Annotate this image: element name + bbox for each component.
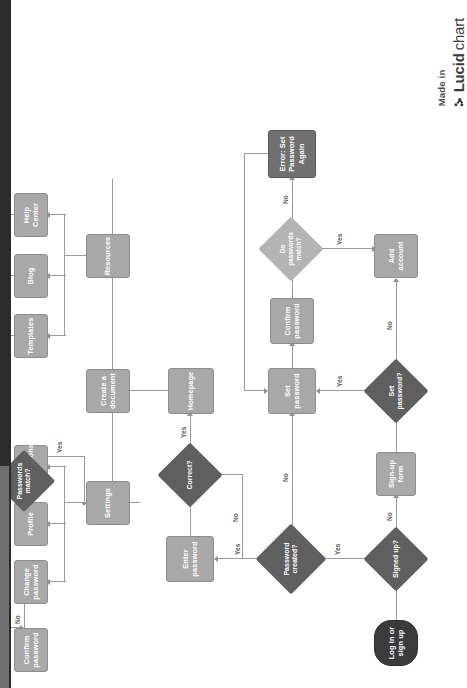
edge-label-do-pw-match-yes: Yes	[336, 233, 343, 246]
node-confirm-password-label: Confirm password	[283, 303, 301, 338]
node-change-password-label: Change password	[22, 564, 40, 599]
edge-label-password-created-yes: Yes	[234, 543, 241, 556]
node-start[interactable]: Log in or sign up	[374, 620, 418, 666]
node-correct[interactable]: Correct?	[167, 452, 213, 498]
edge-settings-branch-bar	[64, 466, 65, 582]
edge-settings-to-change-password	[48, 581, 66, 582]
node-help-center[interactable]: Help Center	[14, 193, 48, 237]
edge-label-correct-no: No	[232, 512, 239, 523]
node-blog-label: Blog	[26, 268, 35, 285]
node-error-set-password-again[interactable]: Error: Set Password Again	[268, 130, 316, 178]
node-create-document[interactable]: Create a document	[86, 369, 130, 413]
edge-set-password-q-yes	[318, 390, 368, 391]
edge-settings-to-notifications	[48, 466, 66, 467]
node-set-password[interactable]: Set password	[268, 368, 316, 414]
edge-change-password-to-confirm2	[24, 604, 25, 628]
edge-homepage-branch-bar	[112, 179, 113, 503]
node-templates-label: Templates	[26, 318, 35, 355]
edge-label-signed-up-no: No	[386, 511, 393, 522]
node-signed-up-label: Signed up?	[373, 536, 419, 582]
edge-resources-to-blog	[48, 275, 66, 276]
node-do-passwords-match-label: Do passwords match?	[268, 226, 314, 272]
edge-settings-to-profile	[48, 523, 66, 524]
node-profile-label: Profile	[26, 512, 35, 536]
node-enter-password[interactable]: Enter password	[166, 536, 214, 582]
node-create-document-label: Create a document	[99, 373, 117, 409]
node-change-password[interactable]: Change password	[14, 560, 48, 604]
edge-error-return-h	[244, 153, 245, 391]
node-error-label: Error: Set Password Again	[278, 132, 305, 176]
edge-label-passwords-match-no: No	[14, 614, 21, 625]
node-set-password-q[interactable]: Set password?	[373, 368, 419, 414]
node-signup-form-label: Sign-up form	[387, 454, 405, 494]
node-settings[interactable]: Settings	[86, 481, 130, 525]
edge-resources-to-help-center	[48, 214, 66, 215]
node-do-passwords-match[interactable]: Do passwords match?	[268, 226, 314, 272]
node-resources-label: Resources	[103, 237, 112, 276]
node-start-label: Log in or sign up	[387, 627, 405, 660]
watermark-brand-bold: Lucid	[450, 53, 467, 92]
node-set-password-q-label: Set password?	[373, 368, 419, 414]
edge-label-set-password-q-no: No	[386, 320, 393, 331]
node-profile[interactable]: Profile	[14, 502, 48, 546]
node-password-created-label: Password created?	[266, 534, 316, 584]
watermark-made-in-label: Made in	[436, 18, 447, 106]
edge-label-correct-yes: Yes	[180, 426, 187, 439]
node-homepage-label: Homepage	[186, 372, 195, 411]
edge-passwords-match-yes-h	[84, 456, 85, 502]
node-help-center-label: Help Center	[22, 195, 40, 235]
node-enter-password-label: Enter password	[181, 538, 199, 580]
edge-password-created-no	[292, 414, 293, 536]
watermark-inner: Made in Lucidchart	[436, 18, 467, 106]
arrowhead	[393, 278, 399, 282]
node-blog[interactable]: Blog	[14, 254, 48, 298]
edge-set-password-q-no	[396, 280, 397, 368]
edge-error-return-v	[244, 153, 270, 154]
edge-label-password-created-no: No	[282, 472, 289, 483]
node-signup-form[interactable]: Sign-up form	[376, 452, 416, 496]
node-settings-label: Settings	[103, 488, 112, 518]
edge-correct-no-h	[242, 474, 243, 559]
node-add-account[interactable]: Add account	[374, 234, 418, 278]
arrowhead	[214, 556, 218, 562]
edge-do-pw-match-yes	[316, 248, 374, 249]
edge-correct-no-up	[216, 558, 243, 559]
node-homepage[interactable]: Homepage	[168, 368, 214, 414]
node-confirm-password-2[interactable]: Confirm password	[14, 628, 48, 672]
node-password-created[interactable]: Password created?	[266, 534, 316, 584]
watermark-brand: Lucidchart	[450, 18, 467, 106]
edge-label-do-pw-match-no: No	[282, 194, 289, 205]
edge-error-return-down	[244, 390, 266, 391]
edge-resources-to-templates	[48, 335, 66, 336]
watermark-brand-light: chart	[450, 18, 467, 50]
node-confirm-password[interactable]: Confirm password	[270, 298, 314, 344]
edge-label-set-password-q-yes: Yes	[336, 375, 343, 388]
edge-label-passwords-match-yes: Yes	[56, 441, 63, 454]
node-templates[interactable]: Templates	[14, 314, 48, 358]
node-confirm-password-2-label: Confirm password	[22, 632, 40, 667]
edge-label-signed-up-yes: Yes	[334, 543, 341, 556]
node-signed-up[interactable]: Signed up?	[373, 536, 419, 582]
node-correct-label: Correct?	[167, 452, 213, 498]
node-set-password-label: Set password	[283, 370, 301, 412]
node-resources[interactable]: Resources	[86, 234, 130, 278]
page-edge-strip-lower	[0, 466, 9, 688]
node-add-account-label: Add account	[387, 236, 405, 276]
lucidchart-logo-icon	[453, 95, 465, 106]
arrowhead	[316, 388, 320, 394]
edge-set-password-to-confirm	[292, 344, 293, 368]
edge-resources-up	[64, 255, 86, 256]
